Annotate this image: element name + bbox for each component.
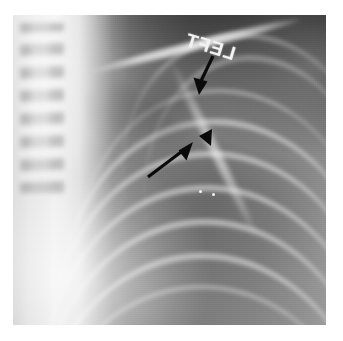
rib-arc bbox=[32, 176, 326, 325]
scapula-edge bbox=[168, 61, 259, 236]
arrow-upper-icon bbox=[194, 56, 214, 95]
trachea-air-column bbox=[31, 19, 50, 201]
rib-arc bbox=[122, 38, 326, 228]
calcification-speck bbox=[212, 193, 215, 196]
radiograph-viewer: LEFT bbox=[0, 0, 343, 341]
rib-arc bbox=[23, 279, 326, 325]
calcification-speck bbox=[199, 190, 202, 193]
rib-arc bbox=[28, 210, 326, 325]
arrow-lower-icon bbox=[148, 142, 193, 177]
rib-arc bbox=[36, 140, 326, 325]
chest-radiograph-image: LEFT bbox=[13, 15, 326, 325]
rib-arc bbox=[25, 247, 326, 325]
rib-arc bbox=[43, 105, 326, 325]
